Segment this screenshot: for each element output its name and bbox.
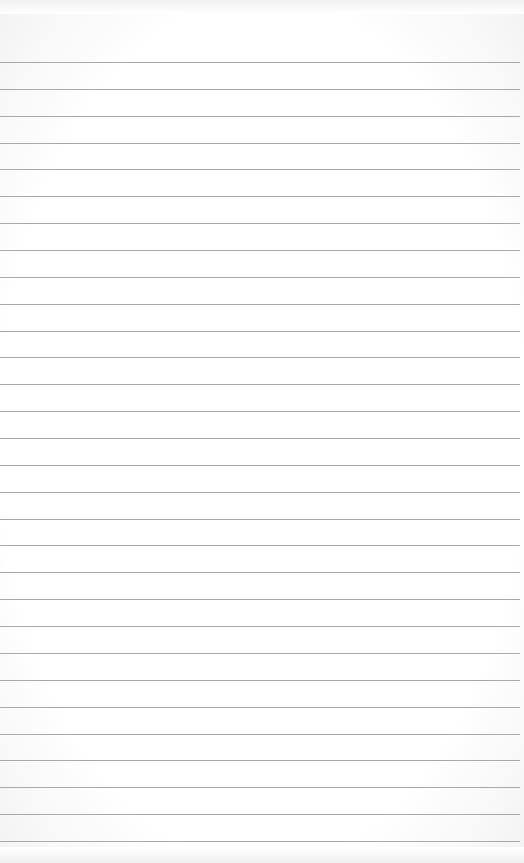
ruled-line (0, 707, 520, 708)
ruled-line (0, 331, 520, 332)
ruled-line (0, 680, 520, 681)
ruled-line (0, 787, 520, 788)
bottom-margin (0, 847, 524, 863)
ruled-line (0, 438, 520, 439)
ruled-line (0, 169, 520, 170)
ruled-line (0, 465, 520, 466)
top-margin (0, 0, 524, 14)
ruled-line (0, 734, 520, 735)
ruled-line (0, 519, 520, 520)
ruled-line (0, 196, 520, 197)
ruled-line (0, 116, 520, 117)
ruled-line (0, 760, 520, 761)
ruled-line (0, 599, 520, 600)
ruled-line (0, 223, 520, 224)
ruled-line (0, 62, 520, 63)
ruled-line (0, 250, 520, 251)
lined-paper-sheet (0, 0, 524, 863)
ruled-line (0, 143, 520, 144)
ruled-line (0, 411, 520, 412)
ruled-line (0, 653, 520, 654)
ruled-line (0, 384, 520, 385)
ruled-line (0, 492, 520, 493)
ruled-line (0, 304, 520, 305)
ruled-line (0, 89, 520, 90)
ruled-line (0, 841, 520, 842)
ruled-line (0, 357, 520, 358)
ruled-line (0, 572, 520, 573)
ruled-line (0, 277, 520, 278)
ruled-line (0, 814, 520, 815)
ruled-line (0, 545, 520, 546)
ruled-line (0, 626, 520, 627)
